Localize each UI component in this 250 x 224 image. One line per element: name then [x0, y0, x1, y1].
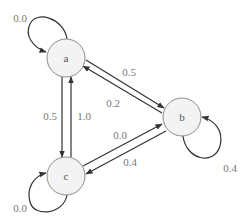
node-c: c: [47, 157, 85, 195]
node-a-label: a: [64, 52, 69, 64]
edge-label-a-to-a: 0.0: [13, 12, 27, 24]
edge-label-c-to-b: 0.0: [113, 129, 127, 141]
state-diagram: 0.0 0.5 0.2 0.5 1.0 0.0 0.4 0.4 0.0 a b …: [0, 0, 250, 224]
edge-label-b-to-a: 0.2: [106, 97, 120, 109]
edge-label-c-to-c: 0.0: [13, 202, 27, 214]
edge-label-b-to-c: 0.4: [123, 156, 137, 168]
edge-label-b-to-b: 0.4: [223, 162, 237, 174]
node-b-label: b: [179, 111, 185, 123]
edge-label-c-to-a: 1.0: [77, 110, 91, 122]
node-b: b: [163, 98, 201, 136]
edge-label-a-to-c: 0.5: [43, 110, 57, 122]
node-a: a: [47, 39, 85, 77]
node-c-label: c: [64, 170, 69, 182]
edge-label-a-to-b: 0.5: [122, 66, 136, 78]
